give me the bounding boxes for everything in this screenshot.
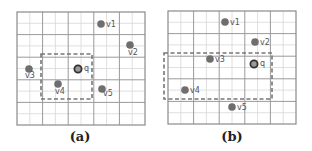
query-label: q xyxy=(260,59,265,68)
point-marker-icon xyxy=(181,86,189,94)
point-label: v5 xyxy=(237,103,247,112)
point-marker-icon xyxy=(221,18,229,26)
caption-b: (b) xyxy=(212,129,252,144)
point-marker-icon xyxy=(206,55,214,63)
point-label: v3 xyxy=(215,55,225,64)
point-label: v1 xyxy=(230,18,240,27)
point-label: v2 xyxy=(260,38,270,47)
point-marker-icon xyxy=(228,103,236,111)
point-v1: v1 xyxy=(221,18,240,27)
query-marker-icon xyxy=(250,60,257,67)
point-v5: v5 xyxy=(228,103,247,112)
point-v2: v2 xyxy=(251,38,270,47)
point-marker-icon xyxy=(251,38,259,46)
point-v3: v3 xyxy=(206,55,225,64)
grid-diagram-b: v1v2v3v4v5q xyxy=(0,0,312,151)
point-label: v4 xyxy=(190,86,200,95)
point-v4: v4 xyxy=(181,86,200,95)
